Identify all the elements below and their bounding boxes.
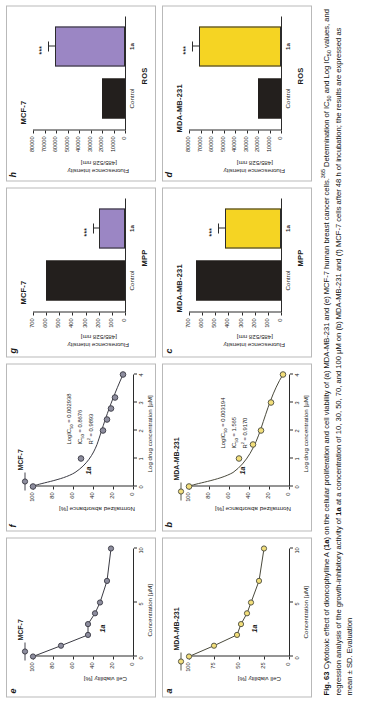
tick — [281, 312, 282, 315]
tick — [212, 130, 213, 133]
error-cap — [218, 223, 219, 233]
panel-h-y-title: Fluorescence intensity — [67, 167, 129, 174]
panel-c-y-title-2: [485/528 nm] — [237, 333, 273, 340]
bar-1a — [199, 26, 281, 66]
y-tick-label: 400 — [224, 318, 230, 334]
panel-d-y-title-2: [485/528 nm] — [237, 159, 273, 166]
caption-compound-2: 1a — [334, 507, 343, 515]
tick — [68, 130, 69, 133]
category-label-1a: 1a — [128, 212, 135, 244]
panel-h-x-axis — [125, 16, 126, 130]
y-tick-label: 40000 — [231, 136, 237, 158]
bar-1a — [225, 208, 282, 248]
y-tick-label: 300 — [238, 318, 244, 334]
tick — [114, 130, 115, 133]
error-bar — [192, 45, 199, 46]
panel-g-assay-label: MPP — [140, 249, 149, 266]
bar-control — [102, 78, 125, 118]
panel-h-label: h — [8, 172, 18, 178]
tick — [112, 312, 113, 315]
panel-d-label: d — [164, 172, 174, 178]
panel-h: h MCF-7 80000 70000 60000 50000 40000 30… — [6, 5, 156, 181]
significance-marker: *** — [208, 227, 215, 236]
error-cap — [48, 41, 49, 51]
figure-63: e MCF-7 100 80 60 40 20 0 0 5 10 Concent… — [0, 0, 366, 701]
tick — [247, 130, 248, 133]
panel-b: b MDA-MB-231 100 80 60 40 20 0 0 1 2 3 4… — [162, 363, 312, 531]
y-tick-label: 80000 — [185, 136, 191, 158]
panel-f-plot — [7, 362, 157, 530]
y-tick-label: 400 — [68, 318, 74, 334]
significance-marker: *** — [38, 45, 45, 54]
bar-1a — [99, 208, 125, 248]
panel-c: c MDA-MB-231 700 600 500 400 300 200 100… — [162, 187, 312, 357]
caption-mid3: and Log IC — [322, 56, 331, 95]
tick — [91, 130, 92, 133]
y-tick-label: 100 — [108, 318, 114, 334]
bar-control — [258, 78, 281, 118]
tick — [235, 130, 236, 133]
panel-a-plot — [7, 536, 157, 696]
figure-number: Fig. 63 — [322, 671, 331, 695]
y-tick-label: 50000 — [64, 136, 70, 158]
tick — [189, 130, 190, 133]
y-tick-label: 60000 — [208, 136, 214, 158]
tick — [72, 312, 73, 315]
y-tick-label: 60000 — [52, 136, 58, 158]
tick — [33, 130, 34, 133]
panel-d-assay-label: ROS — [296, 67, 305, 84]
tick — [258, 130, 259, 133]
panel-g: g MCF-7 700 600 500 400 300 200 100 0 Fl… — [6, 187, 156, 357]
category-label-control: Control — [128, 264, 135, 296]
y-tick-label: 100 — [264, 318, 270, 334]
panel-c-label: c — [164, 348, 174, 353]
y-tick-label: 200 — [95, 318, 101, 334]
y-tick-label: 700 — [29, 318, 35, 334]
y-tick-label: 0 — [121, 136, 127, 158]
figure-page: e MCF-7 100 80 60 40 20 0 0 5 10 Concent… — [0, 0, 366, 701]
panel-h-y-title-2: [485/528 nm] — [81, 159, 117, 166]
panel-c-title: MDA-MB-231 — [175, 264, 184, 312]
category-label-control: Control — [128, 82, 135, 114]
tick — [99, 312, 100, 315]
category-label-control: Control — [284, 264, 291, 296]
category-label-1a: 1a — [128, 30, 135, 62]
panel-a: e MCF-7 100 80 60 40 20 0 0 5 10 Concent… — [6, 537, 156, 697]
bar-control — [196, 260, 281, 300]
panel-f: f MCF-7 100 80 60 40 20 0 0 1 2 3 4 Log … — [6, 363, 156, 531]
caption-lead: Cytotoxic effect of dioncophylline A ( — [322, 547, 331, 668]
panel-h-assay-label: ROS — [140, 67, 149, 84]
tick — [228, 312, 229, 315]
error-bar — [218, 227, 225, 228]
y-tick-label: 300 — [82, 318, 88, 334]
tick — [59, 312, 60, 315]
tick — [56, 130, 57, 133]
panel-g-x-axis — [125, 198, 126, 312]
y-tick-label: 600 — [198, 318, 204, 334]
tick — [224, 130, 225, 133]
significance-marker: *** — [182, 45, 189, 54]
y-tick-label: 10000 — [266, 136, 272, 158]
y-tick-label: 20000 — [98, 136, 104, 158]
tick — [281, 130, 282, 133]
caption-mid1: ) on the cellular proliferation and cell… — [322, 178, 331, 539]
caption-sub1: 50 — [326, 95, 332, 101]
y-tick-label: 200 — [251, 318, 257, 334]
error-cap — [192, 41, 193, 51]
error-cap — [93, 223, 94, 233]
category-label-control: Control — [284, 82, 291, 114]
tick — [202, 312, 203, 315]
tick — [45, 130, 46, 133]
y-tick-label: 80000 — [29, 136, 35, 158]
tick — [125, 312, 126, 315]
y-tick-label: 600 — [42, 318, 48, 334]
tick — [255, 312, 256, 315]
y-tick-label: 10000 — [110, 136, 116, 158]
tick — [46, 312, 47, 315]
y-tick-label: 0 — [277, 318, 283, 334]
panel-h-title: MCF-7 — [19, 100, 28, 124]
y-tick-label: 40000 — [75, 136, 81, 158]
tick — [102, 130, 103, 133]
panel-b-plot — [163, 362, 313, 530]
y-tick-label: 0 — [277, 136, 283, 158]
